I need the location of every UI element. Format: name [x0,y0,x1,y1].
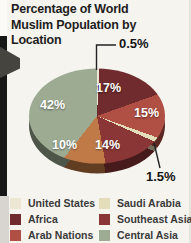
legend-item-central-asia: Central Asia [99,229,186,241]
legend-swatch [10,198,21,209]
slice-label-africa: 17% [96,81,121,95]
legend-label: Saudi Arabia [117,197,181,209]
legend-label: United States [28,197,95,209]
slice-label-10: 10% [52,138,77,152]
callout-label-saudi-arabia: 1.5% [146,169,176,184]
slice-label-southeast-asia: 14% [95,138,120,152]
legend-label: Arab Nations [28,229,93,241]
legend-label: Africa [28,213,58,225]
legend-label: Central Asia [117,229,178,241]
legend-item-africa: Africa [10,213,99,225]
page-edge-white [0,0,7,38]
slice-label-42: 42% [40,98,65,112]
legend-item-southeast-asia: Southeast Asia [99,213,186,225]
page-edge-light [0,196,9,243]
legend-item-saudi-arabia: Saudi Arabia [99,197,186,209]
legend-item-arab-nations: Arab Nations [10,229,99,241]
legend: United States Saudi Arabia Africa Southe… [10,197,188,241]
legend-item-united-states: United States [10,197,99,209]
callout-label-united-states: 0.5% [119,36,149,51]
chart-panel: Percentage of World Muslim Population by… [0,0,191,243]
legend-swatch [99,198,110,209]
legend-label: Southeast Asia [117,213,191,225]
legend-swatch [99,214,110,225]
legend-swatch [10,214,21,225]
slice-label-arab-nations: 15% [134,106,159,120]
legend-swatch [99,230,110,241]
leader-line-0-5 [97,45,117,70]
adjacent-photo-corner [0,44,20,78]
legend-swatch [10,230,21,241]
